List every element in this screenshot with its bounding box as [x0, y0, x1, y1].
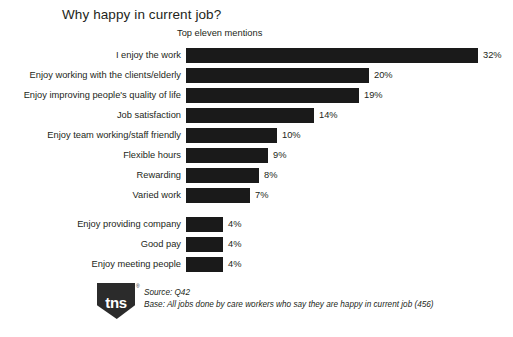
bar [186, 257, 223, 272]
bar-value-label: 19% [364, 88, 383, 103]
bar [186, 108, 314, 123]
chart-row: Rewarding8% [0, 168, 513, 183]
bar-value-label: 32% [483, 48, 502, 63]
bar-track [186, 108, 314, 123]
source-note: Source: Q42 [144, 288, 190, 297]
bar-value-label: 4% [228, 237, 241, 252]
bar-value-label: 7% [255, 188, 268, 203]
page-title: Why happy in current job? [62, 7, 221, 22]
bar-value-label: 4% [228, 217, 241, 232]
chart-row: Good pay4% [0, 237, 513, 252]
bar-track [186, 188, 250, 203]
bar [186, 48, 478, 63]
bar-category-label: Enjoy team working/staff friendly [47, 128, 181, 143]
bar-value-label: 9% [273, 148, 286, 163]
bar [186, 88, 359, 103]
bar-track [186, 257, 223, 272]
bar-track [186, 217, 223, 232]
bar-category-label: Flexible hours [123, 148, 181, 163]
tns-logo: tns ® [97, 283, 135, 319]
base-note: Base: All jobs done by care workers who … [144, 300, 434, 309]
bar-category-label: Enjoy meeting people [92, 257, 181, 272]
bar-track [186, 68, 369, 83]
bar-value-label: 8% [264, 168, 277, 183]
chart-row: Enjoy improving people's quality of life… [0, 88, 513, 103]
tns-logo-label: tns [97, 295, 135, 310]
bar-track [186, 237, 223, 252]
chart-row: Flexible hours9% [0, 148, 513, 163]
chart-row: Job satisfaction14% [0, 108, 513, 123]
bar-category-label: Job satisfaction [117, 108, 181, 123]
bar [186, 128, 277, 143]
chart-row: Enjoy team working/staff friendly10% [0, 128, 513, 143]
bar-track [186, 88, 359, 103]
bar [186, 148, 268, 163]
chart-row: I enjoy the work32% [0, 48, 513, 63]
bar-value-label: 20% [374, 68, 393, 83]
bar-category-label: Varied work [133, 188, 181, 203]
slide-canvas: Why happy in current job? Top eleven men… [0, 0, 513, 337]
bar-value-label: 14% [319, 108, 338, 123]
chart-subtitle: Top eleven mentions [177, 28, 262, 38]
chart-row: Enjoy working with the clients/elderly20… [0, 68, 513, 83]
bar-category-label: I enjoy the work [116, 48, 181, 63]
bar-track [186, 128, 277, 143]
bar-track [186, 168, 259, 183]
bar-value-label: 10% [282, 128, 301, 143]
bar-category-label: Enjoy working with the clients/elderly [30, 68, 181, 83]
chart-row: Enjoy providing company4% [0, 217, 513, 232]
chart-footer: tns ® Source: Q42 Base: All jobs done by… [0, 282, 513, 327]
bar-category-label: Good pay [141, 237, 181, 252]
bar [186, 68, 369, 83]
bar-category-label: Rewarding [137, 168, 181, 183]
registered-trademark-icon: ® [136, 283, 140, 289]
bar [186, 217, 223, 232]
bar-track [186, 48, 478, 63]
bar [186, 237, 223, 252]
bar-category-label: Enjoy providing company [77, 217, 181, 232]
bar-chart-plot-area: I enjoy the work32%Enjoy working with th… [0, 48, 513, 273]
bar [186, 188, 250, 203]
bar-value-label: 4% [228, 257, 241, 272]
chart-row: Enjoy meeting people4% [0, 257, 513, 272]
chart-row: Varied work7% [0, 188, 513, 203]
bar [186, 168, 259, 183]
bar-track [186, 148, 268, 163]
bar-category-label: Enjoy improving people's quality of life [24, 88, 181, 103]
